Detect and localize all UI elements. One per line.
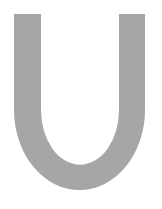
letter-u-glyph: U (0, 0, 162, 209)
